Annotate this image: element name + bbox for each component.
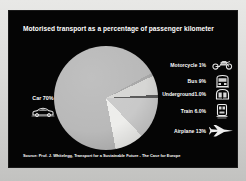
motorcycle-icon-svg (211, 59, 234, 70)
slide-frame: Motorised transport as a percentage of p… (0, 0, 246, 181)
underground-icon-svg (215, 88, 230, 100)
car-legend-group: Car 70% (21, 95, 65, 120)
legend-row-train: Train 6.0% (147, 103, 235, 119)
car-label: Car 70% (21, 95, 65, 101)
legend-row-motorcycle: Motorcycle 1% (147, 59, 235, 70)
train-icon (209, 103, 235, 119)
pie-chart (54, 46, 158, 150)
legend-row-airplane: Airplane 13% (147, 124, 235, 138)
car-icon-svg (30, 106, 56, 118)
page-title: Motorised transport as a percentage of p… (23, 25, 223, 33)
legend-label-bus: Bus 9% (188, 78, 206, 84)
legend-row-underground: Underground1.0% (147, 88, 235, 100)
legend-row-bus: Bus 9% (147, 74, 235, 88)
legend-label-airplane: Airplane 13% (174, 128, 206, 134)
bus-icon-svg (215, 74, 230, 88)
presentation-slide: Motorised transport as a percentage of p… (9, 11, 237, 167)
bus-icon (209, 74, 235, 88)
legend-label-underground: Underground1.0% (162, 91, 206, 97)
train-icon-svg (215, 103, 229, 119)
legend-label-train: Train 6.0% (181, 108, 206, 114)
legend-label-motorcycle: Motorcycle 1% (170, 62, 206, 68)
car-icon (21, 104, 65, 120)
source-citation: Source: Prof. J. Whitelegg, Transport fo… (23, 153, 180, 158)
airplane-icon (209, 124, 235, 138)
motorcycle-icon (209, 59, 235, 70)
pie-slices (54, 46, 158, 150)
underground-icon (209, 88, 235, 100)
airplane-icon-svg (209, 124, 235, 138)
